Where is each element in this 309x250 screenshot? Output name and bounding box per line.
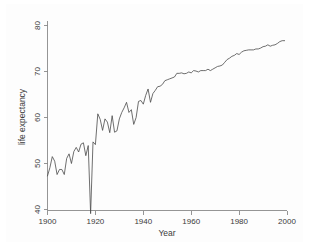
x-tick-label-2000: 2000 — [278, 217, 296, 226]
x-axis-title: Year — [158, 228, 175, 238]
x-tick-label-1980: 1980 — [230, 217, 248, 226]
y-axis-tick-labels: 80 70 60 50 40 — [33, 21, 42, 214]
chart-screenshot: 80 70 60 50 40 life expectancy 1900 1920 — [0, 0, 309, 250]
y-tick-label-70: 70 — [33, 67, 42, 76]
x-axis-tick-labels: 1900 1920 1940 1960 1980 2000 — [39, 217, 297, 226]
y-tick-label-50: 50 — [33, 159, 42, 168]
x-tick-label-1960: 1960 — [182, 217, 200, 226]
y-tick-label-60: 60 — [33, 113, 42, 122]
y-axis-ticks — [44, 26, 48, 210]
line-chart: 80 70 60 50 40 life expectancy 1900 1920 — [6, 4, 303, 242]
y-axis-title: life expectancy — [17, 88, 27, 145]
life-expectancy-line — [48, 41, 285, 214]
y-tick-label-40: 40 — [33, 205, 42, 214]
x-tick-label-1900: 1900 — [39, 217, 57, 226]
x-axis-ticks — [48, 211, 288, 215]
y-tick-label-80: 80 — [33, 21, 42, 30]
x-tick-label-1940: 1940 — [134, 217, 152, 226]
figure-surface: 80 70 60 50 40 life expectancy 1900 1920 — [6, 4, 303, 242]
x-tick-label-1920: 1920 — [87, 217, 105, 226]
